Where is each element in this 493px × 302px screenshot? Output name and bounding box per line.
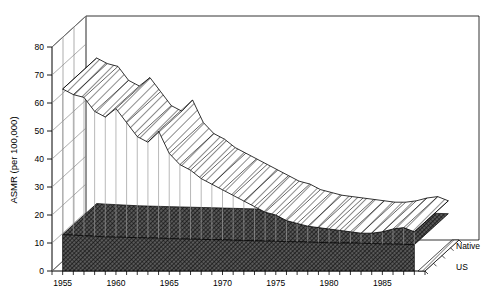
- xtick-label-1960: 1960: [106, 278, 125, 288]
- xtick-label-1980: 1980: [320, 278, 339, 288]
- ytick-label-30: 30: [35, 182, 45, 192]
- ytick-label-70: 70: [35, 70, 45, 80]
- chart-figure: 0 10 20 30 40 50 60 70 80 ASMR (per 100,…: [0, 0, 493, 302]
- asmr-3d-ribbon-chart: 0 10 20 30 40 50 60 70 80 ASMR (per 100,…: [0, 0, 493, 302]
- y-axis-title: ASMR (per 100,000): [8, 116, 19, 203]
- ytick-label-50: 50: [35, 126, 45, 136]
- xtick-label-1965: 1965: [160, 278, 179, 288]
- ytick-label-60: 60: [35, 98, 45, 108]
- xtick-label-1955: 1955: [53, 278, 72, 288]
- ytick-label-20: 20: [35, 210, 45, 220]
- ytick-label-10: 10: [35, 238, 45, 248]
- legend-label-us: US: [456, 262, 468, 272]
- xtick-label-1970: 1970: [213, 278, 232, 288]
- ytick-label-40: 40: [35, 154, 45, 164]
- ytick-label-80: 80: [35, 42, 45, 52]
- ytick-label-0: 0: [39, 266, 44, 276]
- legend-label-native: Native: [456, 241, 480, 251]
- xtick-label-1985: 1985: [373, 278, 392, 288]
- xtick-label-1975: 1975: [266, 278, 285, 288]
